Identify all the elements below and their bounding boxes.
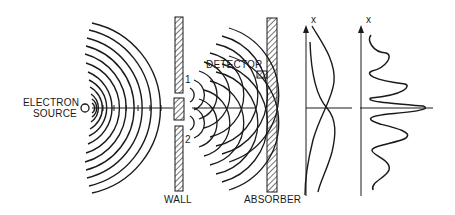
individual-plot-x-label: x bbox=[311, 15, 316, 25]
absorber bbox=[267, 18, 277, 192]
absorber-label: ABSORBER bbox=[244, 195, 301, 205]
electron-source-icon bbox=[81, 104, 89, 112]
interference-plot bbox=[358, 25, 433, 196]
detector-label: DETECTOR bbox=[206, 60, 262, 70]
electron-source-label-line2: SOURCE bbox=[33, 109, 77, 119]
electron-source-label-line1: ELECTRON bbox=[23, 98, 79, 108]
slit-1-label: 1 bbox=[185, 75, 191, 85]
slit1-wavefronts bbox=[190, 28, 279, 162]
wall-label: WALL bbox=[164, 195, 192, 205]
slit-2-label: 2 bbox=[185, 135, 191, 145]
wall bbox=[174, 17, 184, 191]
interference-plot-x-label: x bbox=[366, 15, 371, 25]
individual-probability-plot bbox=[303, 25, 352, 196]
detector-icon bbox=[257, 71, 267, 78]
